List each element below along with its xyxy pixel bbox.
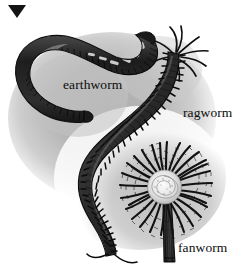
label-fanworm: fanworm [178, 241, 227, 255]
triangle-down-icon [8, 5, 26, 18]
label-earthworm: earthworm [63, 78, 122, 92]
illustration-canvas [0, 0, 241, 279]
label-ragworm: ragworm [183, 106, 232, 120]
worm-figure-plate: earthworm ragworm fanworm [0, 0, 241, 279]
